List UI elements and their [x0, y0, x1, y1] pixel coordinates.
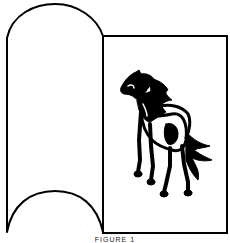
- figure-drawing: [0, 0, 230, 243]
- arched-panel: [7, 4, 103, 232]
- figure-caption: FIGURE 1: [0, 236, 230, 243]
- horse-icon: [121, 70, 212, 197]
